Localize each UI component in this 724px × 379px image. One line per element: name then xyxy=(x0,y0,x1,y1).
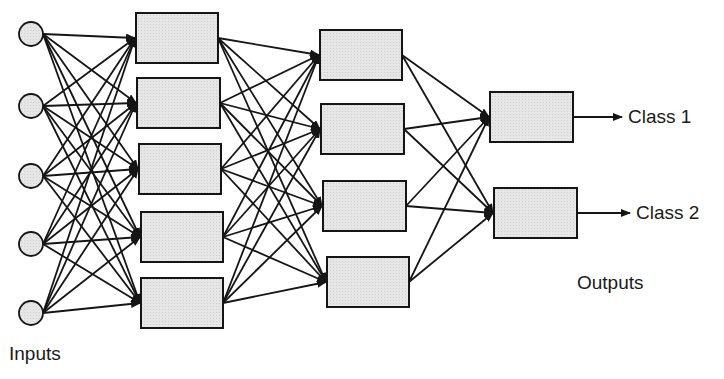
connection-arrow xyxy=(406,117,489,206)
class-1-label: Class 1 xyxy=(628,106,691,128)
hidden2-node-2 xyxy=(321,104,404,154)
connection-arrow xyxy=(406,206,493,213)
connection-arrow xyxy=(404,117,489,129)
hidden1-node-4 xyxy=(141,212,223,262)
hidden2-node-3 xyxy=(323,181,406,231)
hidden2-node-1 xyxy=(320,30,402,80)
outputs-label: Outputs xyxy=(577,272,644,294)
connection-arrow xyxy=(223,282,326,303)
input-node-3 xyxy=(19,164,43,188)
neural-network-diagram xyxy=(0,0,724,379)
connection-arrow xyxy=(402,55,493,213)
connection-arrow xyxy=(409,117,489,282)
connection-arrow xyxy=(221,129,320,169)
input-node-2 xyxy=(19,94,43,118)
connection-arrow xyxy=(221,169,322,206)
output-node-2 xyxy=(494,188,577,238)
input-node-4 xyxy=(19,232,43,256)
connection-arrow xyxy=(402,55,489,117)
inputs-label: Inputs xyxy=(9,343,61,365)
output-arrows xyxy=(573,117,630,213)
hidden1-node-3 xyxy=(139,144,221,194)
class-2-label: Class 2 xyxy=(636,202,699,224)
hidden1-node-2 xyxy=(137,78,220,128)
connection-arrow xyxy=(218,38,326,282)
connection-arrow xyxy=(43,34,135,38)
connection-arrow xyxy=(43,38,135,176)
hidden1-node-5 xyxy=(141,278,223,328)
hidden1-node-1 xyxy=(136,13,218,63)
connection-arrow xyxy=(43,303,140,313)
connections xyxy=(43,34,493,313)
connection-arrow xyxy=(43,169,138,313)
connection-arrow xyxy=(221,55,319,169)
hidden2-node-4 xyxy=(327,257,409,307)
input-node-5 xyxy=(19,301,43,325)
connection-arrow xyxy=(409,213,493,282)
input-node-1 xyxy=(19,22,43,46)
output-node-1 xyxy=(490,92,573,142)
